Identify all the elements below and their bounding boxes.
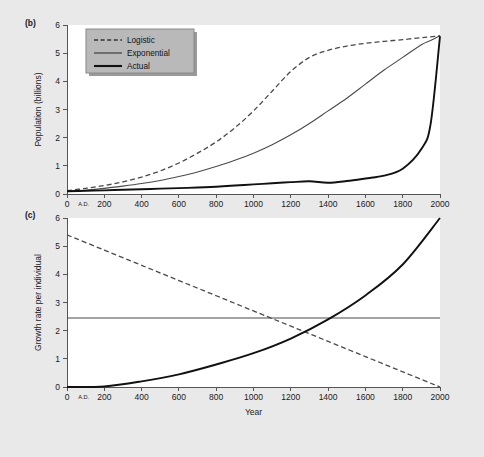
legend-label-logistic: Logistic xyxy=(127,36,155,45)
x-tick-label: 200 xyxy=(97,199,111,209)
population-growth-figure: (b) (c) 01234560200400600800100012001400… xyxy=(0,0,484,457)
y-tick-label: 0 xyxy=(55,382,60,392)
x-tick-label: 1000 xyxy=(244,199,263,209)
x-tick-label: 800 xyxy=(209,199,223,209)
plot-area xyxy=(67,218,440,387)
legend-label-exponential: Exponential xyxy=(127,49,170,58)
y-tick-label: 1 xyxy=(55,161,60,171)
x-axis-title: Year xyxy=(245,407,262,417)
x-axis-era-label: A.D. xyxy=(78,201,89,207)
y-tick-label: 0 xyxy=(55,189,60,199)
x-tick-label: 800 xyxy=(209,392,223,402)
y-tick-label: 4 xyxy=(55,269,60,279)
y-tick-label: 2 xyxy=(55,133,60,143)
x-tick-label: 2000 xyxy=(431,392,450,402)
figure-canvas: 0123456020040060080010001200140016001800… xyxy=(0,0,484,457)
x-tick-label: 1800 xyxy=(393,199,412,209)
x-tick-label: 400 xyxy=(135,392,149,402)
x-tick-label: 1200 xyxy=(281,199,300,209)
x-tick-label: 600 xyxy=(172,392,186,402)
x-tick-label: 600 xyxy=(172,199,186,209)
x-tick-label: 2000 xyxy=(431,199,450,209)
y-tick-label: 6 xyxy=(55,213,60,223)
x-tick-label: 0 xyxy=(65,392,70,402)
y-tick-label: 5 xyxy=(55,48,60,58)
y-tick-label: 3 xyxy=(55,105,60,115)
x-tick-label: 0 xyxy=(65,199,70,209)
x-tick-label: 1600 xyxy=(356,199,375,209)
x-tick-label: 1800 xyxy=(393,392,412,402)
x-axis-era-label: A.D. xyxy=(78,394,89,400)
y-tick-label: 6 xyxy=(55,20,60,30)
y-tick-label: 5 xyxy=(55,241,60,251)
y-tick-label: 4 xyxy=(55,76,60,86)
x-tick-label: 1400 xyxy=(319,199,338,209)
y-axis-title: Growth rate per individual xyxy=(33,254,43,351)
panel-c-plot: 0123456020040060080010001200140016001800… xyxy=(33,213,450,417)
x-tick-label: 1400 xyxy=(319,392,338,402)
x-tick-label: 1200 xyxy=(281,392,300,402)
y-tick-label: 1 xyxy=(55,354,60,364)
x-tick-label: 1000 xyxy=(244,392,263,402)
x-tick-label: 200 xyxy=(97,392,111,402)
y-tick-label: 3 xyxy=(55,298,60,308)
legend: LogisticExponentialActual xyxy=(86,29,197,76)
y-axis-title: Population (billions) xyxy=(33,72,43,146)
x-tick-label: 1600 xyxy=(356,392,375,402)
legend-label-actual: Actual xyxy=(127,62,150,71)
x-tick-label: 400 xyxy=(135,199,149,209)
y-tick-label: 2 xyxy=(55,326,60,336)
